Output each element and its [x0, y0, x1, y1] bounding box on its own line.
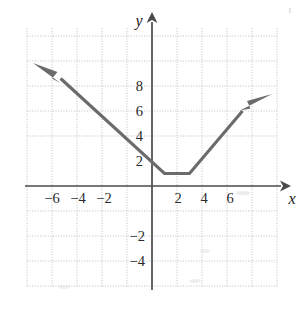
x-tick-label: −2 — [96, 190, 111, 206]
curve-arrow-right — [240, 94, 272, 111]
y-tick-label: 2 — [136, 153, 143, 169]
scan-artifacts — [58, 8, 291, 289]
y-axis — [147, 12, 158, 290]
y-tick-label: 4 — [136, 128, 144, 144]
y-tick-labels: 8 6 4 2 −2 −4 — [130, 78, 146, 269]
y-tick-label: 6 — [136, 103, 143, 119]
x-axis-label: x — [287, 190, 295, 207]
curve-arrow-left — [33, 63, 61, 84]
x-axis — [25, 181, 291, 192]
y-axis-label: y — [133, 12, 143, 30]
x-tick-label: −6 — [44, 190, 59, 206]
x-tick-labels: −6 −4 −2 2 4 6 — [44, 190, 233, 206]
x-tick-label: 6 — [226, 190, 233, 206]
x-tick-label: −4 — [70, 190, 86, 206]
coordinate-plane: −6 −4 −2 2 4 6 8 6 4 2 −2 −4 y x — [0, 0, 308, 310]
y-axis-arrowhead — [147, 12, 158, 23]
y-tick-label: −4 — [130, 253, 146, 269]
x-tick-label: 2 — [174, 190, 181, 206]
y-tick-label: −2 — [130, 228, 145, 244]
graph-figure: −6 −4 −2 2 4 6 8 6 4 2 −2 −4 y x — [0, 0, 308, 310]
x-tick-label: 4 — [200, 190, 208, 206]
y-tick-label: 8 — [136, 78, 143, 94]
